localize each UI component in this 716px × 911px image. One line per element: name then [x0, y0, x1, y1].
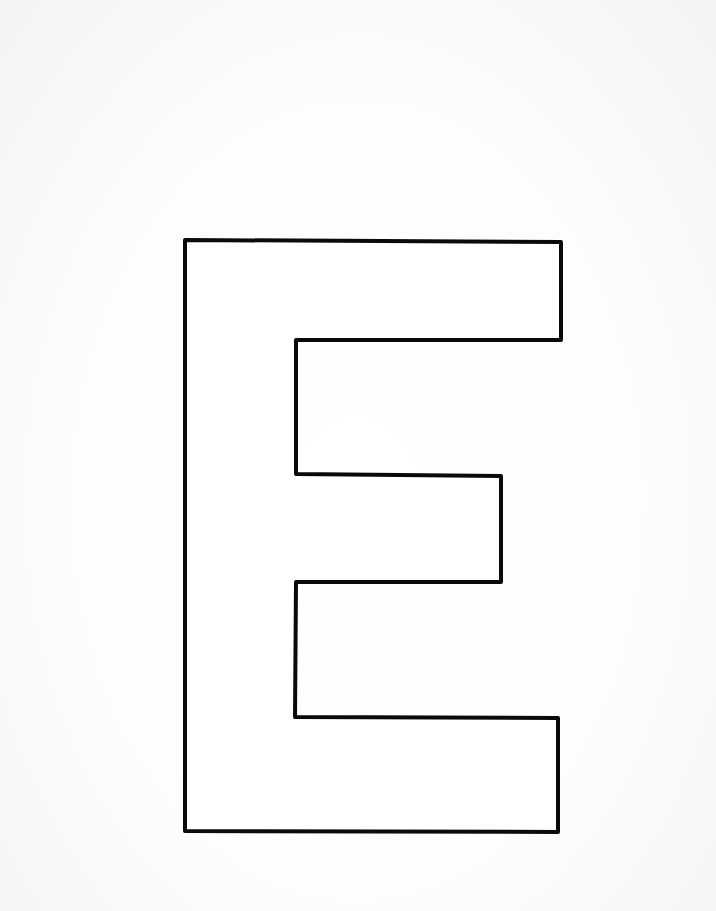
- coloring-page: E: [0, 0, 716, 911]
- letter-e-shape: [185, 240, 561, 832]
- letter-e-outline: [0, 0, 716, 911]
